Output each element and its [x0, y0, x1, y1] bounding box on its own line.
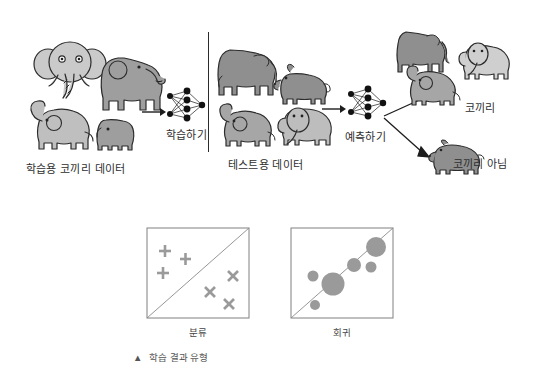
elephant-trunk-up-icon [407, 66, 460, 105]
elephant-side-icon [218, 50, 279, 95]
test-data-illustration [218, 38, 346, 150]
regression-plot-title: 회귀 [290, 325, 394, 339]
vertical-divider [208, 32, 209, 152]
training-set-label: 학습용 코끼리 데이터 [26, 160, 125, 176]
train-step-label: 학습하기 [166, 126, 207, 142]
result-elephants-illustration [398, 22, 534, 106]
learning-result-types-figure: 분류 회귀 ▲ 학습 결과 유형 [0, 205, 539, 374]
neural-network-icon [347, 85, 387, 121]
predict-step-label: 예측하기 [345, 128, 386, 144]
pipeline-diagram: 학습용 코끼리 데이터 학습하기 [0, 0, 539, 200]
result-elephant-label: 코끼리 [465, 99, 496, 115]
elephant-trunk-up-icon [31, 101, 93, 149]
arrow-right-icon [322, 103, 346, 115]
result-not-elephant-label: 코끼리 아님 [453, 155, 508, 171]
elephant-front-icon [34, 42, 106, 98]
arrow-right-icon [142, 106, 166, 118]
elephant-side-icon [397, 32, 449, 72]
training-data-illustration [22, 28, 172, 150]
elephant-small-icon [97, 120, 134, 150]
neural-network-icon [166, 87, 206, 123]
pig-icon [274, 64, 330, 104]
elephant-trunk-up-icon [220, 104, 275, 146]
regression-plot [290, 227, 394, 319]
elephant-side-icon [101, 58, 165, 110]
caption-marker-icon: ▲ [133, 352, 142, 363]
classification-plot-title: 분류 [146, 325, 250, 339]
elephant-front-icon [459, 43, 509, 79]
figure-root: 학습용 코끼리 데이터 학습하기 [0, 0, 539, 374]
figure-caption: ▲ 학습 결과 유형 [133, 350, 208, 364]
arrow-down-right-icon [384, 118, 429, 157]
caption-text: 학습 결과 유형 [149, 352, 208, 363]
test-set-label: 테스트용 데이터 [228, 156, 303, 172]
classification-plot [146, 227, 250, 319]
